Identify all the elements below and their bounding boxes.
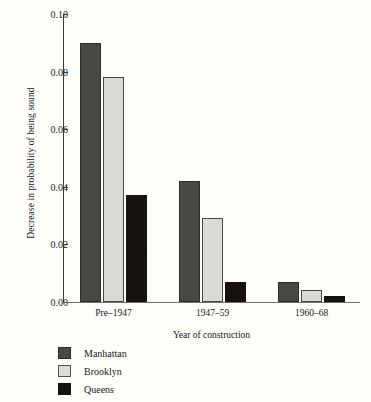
x-axis-title: Year of construction <box>63 330 360 340</box>
legend-item-brooklyn: Brooklyn <box>58 363 127 379</box>
bar-brooklyn-0 <box>103 77 124 302</box>
y-axis-line <box>63 14 64 303</box>
y-tick-mark <box>63 14 68 15</box>
bar-brooklyn-2 <box>301 290 322 302</box>
bar-manhattan-0 <box>80 43 101 302</box>
y-tick-mark <box>63 244 68 245</box>
legend-item-queens: Queens <box>58 381 127 397</box>
y-tick-mark <box>63 72 68 73</box>
y-tick-mark <box>63 129 68 130</box>
legend-label: Queens <box>84 384 114 395</box>
legend-swatch-brooklyn <box>58 365 71 377</box>
x-axis-line <box>63 302 360 303</box>
legend-label: Manhattan <box>84 348 127 359</box>
x-tick-label: 1947–59 <box>170 308 256 318</box>
bar-manhattan-2 <box>278 282 299 302</box>
bar-brooklyn-1 <box>202 218 223 302</box>
y-tick-label: 0.04 <box>22 181 68 192</box>
y-tick-label: 0.08 <box>22 66 68 77</box>
legend-swatch-manhattan <box>58 347 71 359</box>
y-tick-label: 0.10 <box>22 9 68 20</box>
legend-swatch-queens <box>58 383 71 395</box>
bar-queens-1 <box>225 282 246 302</box>
legend-item-manhattan: Manhattan <box>58 345 127 361</box>
x-tick-label: Pre–1947 <box>71 308 157 318</box>
y-tick-label: 0.06 <box>22 124 68 135</box>
y-tick-label: 0.02 <box>22 239 68 250</box>
y-tick-label: 0.00 <box>22 297 68 308</box>
bar-manhattan-1 <box>179 181 200 302</box>
y-tick-mark <box>63 187 68 188</box>
bar-queens-0 <box>126 195 147 302</box>
legend: ManhattanBrooklynQueens <box>58 345 127 399</box>
legend-label: Brooklyn <box>84 366 122 377</box>
x-tick-label: 1960–68 <box>269 308 355 318</box>
bar-chart-figure: Decrease in probability of being sound 0… <box>0 0 371 402</box>
